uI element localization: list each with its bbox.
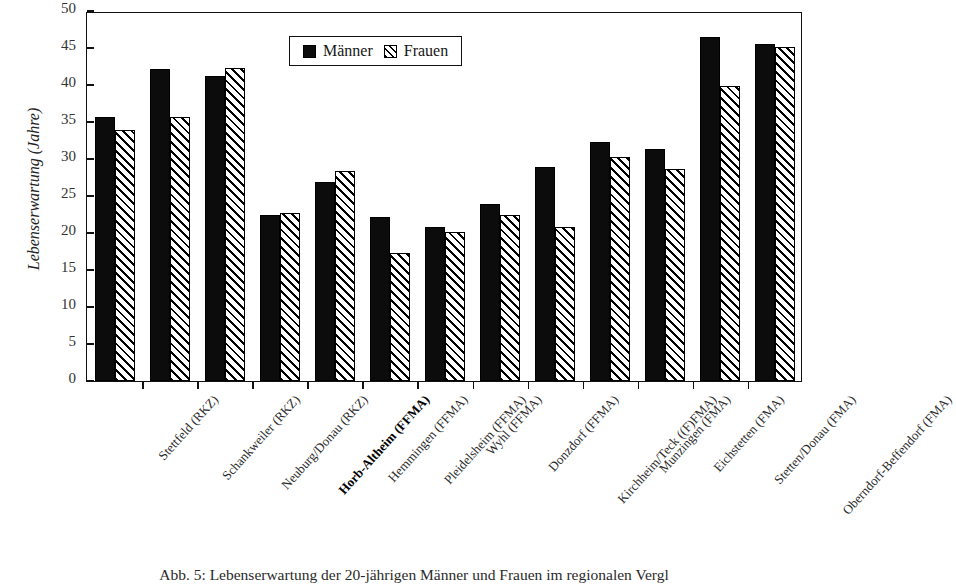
y-tick-label: 50 <box>61 0 76 17</box>
x-axis-labels: Stettfeld (RKZ)Schankweiler (RKZ)Neuburg… <box>86 392 802 542</box>
x-tick-mark <box>197 381 199 389</box>
legend-item-frauen: Frauen <box>384 42 448 60</box>
bar-frauen <box>225 68 245 381</box>
y-tick-label: 40 <box>61 74 76 91</box>
bar-frauen <box>555 227 575 381</box>
bar-frauen <box>500 215 520 382</box>
y-tick-label: 10 <box>61 296 76 313</box>
bar-maenner <box>535 167 555 381</box>
bar-maenner <box>425 227 445 381</box>
y-tick-label: 45 <box>61 37 76 54</box>
bar-maenner <box>260 215 280 382</box>
x-tick-mark <box>748 381 750 389</box>
bar-maenner <box>315 182 335 381</box>
x-axis-label: Kirchheim/Teck ((F)FMA) <box>615 392 721 507</box>
y-tick-label: 5 <box>69 333 77 350</box>
x-tick-mark <box>693 381 695 389</box>
bar-group <box>528 11 583 381</box>
x-tick-mark <box>473 381 475 389</box>
x-axis-label: Stetten/Donau (FMA) <box>771 392 859 488</box>
x-tick-mark <box>142 381 144 389</box>
chart-legend: Männer Frauen <box>289 36 462 66</box>
bar-frauen <box>720 86 740 381</box>
y-tick-label: 30 <box>61 148 76 165</box>
x-tick-mark <box>528 381 530 389</box>
y-tick-label: 25 <box>61 185 76 202</box>
bar-frauen <box>335 171 355 381</box>
bar-group <box>417 11 472 381</box>
x-tick-mark <box>417 381 419 389</box>
x-tick-mark <box>307 381 309 389</box>
bar-maenner <box>370 217 390 381</box>
bar-group <box>693 11 748 381</box>
legend-label-frauen: Frauen <box>404 42 448 60</box>
bar-group <box>473 11 528 381</box>
x-tick-mark <box>638 381 640 389</box>
bar-group <box>583 11 638 381</box>
plot-area: 05101520253035404550 <box>86 12 802 382</box>
x-tick-mark <box>252 381 254 389</box>
legend-label-maenner: Männer <box>323 42 373 60</box>
bar-group <box>252 11 307 381</box>
y-tick-label: 15 <box>61 259 76 276</box>
y-tick-label: 0 <box>69 370 77 387</box>
bar-frauen <box>775 47 795 381</box>
bar-maenner <box>205 76 225 381</box>
x-axis-label: Oberndorf-Beffendorf (FMA) <box>840 392 956 518</box>
x-axis-label: Stettfeld (RKZ) <box>155 392 222 464</box>
bar-group <box>362 11 417 381</box>
bar-frauen <box>170 117 190 381</box>
bars-layer <box>87 13 801 381</box>
y-axis-title: Lebenserwartung (Jahre) <box>25 59 43 319</box>
bar-maenner <box>755 44 775 381</box>
legend-item-maenner: Männer <box>303 42 373 60</box>
bar-maenner <box>95 117 115 381</box>
bar-maenner <box>700 37 720 381</box>
y-tick-label: 20 <box>61 222 76 239</box>
bar-group <box>748 11 803 381</box>
bar-maenner <box>480 204 500 381</box>
figure-caption: Abb. 5: Lebenserwartung der 20-jährigen … <box>0 566 828 584</box>
x-tick-mark <box>583 381 585 389</box>
y-tick-label: 35 <box>61 111 76 128</box>
legend-swatch-solid-icon <box>303 45 316 58</box>
bar-frauen <box>115 130 135 381</box>
bar-frauen <box>610 157 630 381</box>
bar-group <box>197 11 252 381</box>
legend-swatch-hatched-icon <box>384 45 397 58</box>
bar-group <box>307 11 362 381</box>
x-tick-mark <box>362 381 364 389</box>
bar-maenner <box>645 149 665 381</box>
bar-frauen <box>665 169 685 381</box>
bar-group <box>87 11 142 381</box>
bar-maenner <box>150 69 170 381</box>
bar-frauen <box>280 213 300 381</box>
bar-frauen <box>390 253 410 381</box>
bar-group <box>638 11 693 381</box>
x-axis-label: Donzdorf (FFMA) <box>545 392 622 475</box>
bar-group <box>142 11 197 381</box>
bar-frauen <box>445 232 465 381</box>
bar-maenner <box>590 142 610 381</box>
